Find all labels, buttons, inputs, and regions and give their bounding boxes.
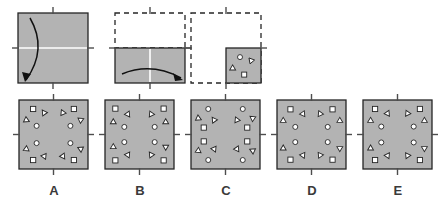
hole-circle-icon (68, 141, 73, 146)
hole-square-icon (372, 106, 377, 111)
hole-circle-icon (206, 158, 211, 163)
hole-square-icon (31, 157, 36, 162)
option-b[interactable] (99, 94, 180, 175)
hole-circle-icon (152, 140, 157, 145)
option-c[interactable] (185, 94, 266, 175)
option-d-square[interactable] (277, 100, 346, 169)
hole-circle-icon (379, 124, 384, 129)
folded-quarter-square (226, 48, 261, 83)
hole-circle-icon (379, 140, 384, 145)
hole-square-icon (31, 106, 36, 111)
option-d[interactable] (271, 94, 352, 175)
hole-circle-icon (68, 123, 73, 128)
hole-circle-icon (293, 124, 298, 129)
option-e-label: E (363, 183, 433, 198)
option-a-label: A (19, 183, 89, 198)
option-e[interactable] (357, 94, 438, 175)
hole-circle-icon (240, 158, 245, 163)
unfolded-sheet-with-horizontal-fold (12, 7, 94, 89)
hole-circle-icon (122, 124, 127, 129)
hole-square-icon (71, 157, 76, 162)
hole-circle-icon (325, 124, 330, 129)
hole-square-icon (113, 158, 118, 163)
puzzle-canvas (0, 0, 443, 209)
hole-square-icon (330, 157, 335, 162)
hole-circle-icon (152, 124, 157, 129)
hole-square-icon (288, 107, 293, 112)
hole-circle-icon (238, 55, 243, 60)
hole-square-icon (330, 107, 335, 112)
hole-circle-icon (411, 124, 416, 129)
option-a-square[interactable] (19, 100, 88, 169)
hole-circle-icon (122, 140, 127, 145)
option-c-label: C (191, 183, 261, 198)
option-c-square[interactable] (191, 100, 260, 169)
hole-circle-icon (206, 106, 211, 111)
folded-quarter-with-punched-holes (185, 7, 267, 89)
hole-circle-icon (293, 140, 298, 145)
hole-square-icon (245, 139, 250, 144)
hole-square-icon (417, 106, 422, 111)
hole-square-icon (372, 157, 377, 162)
option-a[interactable] (13, 94, 94, 175)
answer-options (13, 94, 438, 175)
hole-square-icon (417, 157, 422, 162)
hole-square-icon (161, 106, 166, 111)
hole-square-icon (201, 125, 206, 130)
hole-circle-icon (34, 123, 39, 128)
option-d-label: D (277, 183, 347, 198)
hole-square-icon (161, 158, 166, 163)
hole-circle-icon (240, 106, 245, 111)
hole-square-icon (242, 72, 247, 77)
hole-square-icon (245, 125, 250, 130)
hole-square-icon (71, 106, 76, 111)
hole-square-icon (201, 139, 206, 144)
half-folded-sheet-with-vertical-fold (109, 7, 191, 89)
puzzle-figure (0, 0, 443, 209)
hole-circle-icon (325, 140, 330, 145)
hole-circle-icon (34, 141, 39, 146)
folding-sequence (12, 7, 267, 89)
hole-square-icon (288, 157, 293, 162)
hole-square-icon (113, 106, 118, 111)
phantom-half-outline (115, 13, 185, 48)
option-b-label: B (105, 183, 175, 198)
hole-circle-icon (411, 140, 416, 145)
